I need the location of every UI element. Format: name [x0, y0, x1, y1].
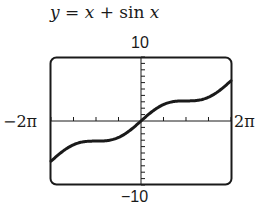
plot-area — [0, 0, 273, 216]
